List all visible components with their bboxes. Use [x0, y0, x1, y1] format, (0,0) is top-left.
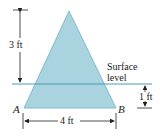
- vertex-b-label: B: [118, 103, 125, 115]
- surface-label-line2: level: [107, 72, 127, 83]
- base-label: 4 ft: [60, 115, 74, 126]
- depth-label: 1 ft: [139, 91, 153, 102]
- height-dimension: 3 ft: [9, 10, 28, 82]
- depth-dimension: 1 ft: [137, 86, 153, 108]
- triangle-plate-diagram: 3 ft Surface level 1 ft A B 4 ft: [0, 0, 160, 136]
- height-label: 3 ft: [9, 39, 23, 50]
- triangle-plate: [24, 11, 116, 108]
- surface-label-line1: Surface: [107, 61, 138, 72]
- base-dimension: 4 ft: [23, 113, 116, 129]
- vertex-a-label: A: [12, 103, 20, 115]
